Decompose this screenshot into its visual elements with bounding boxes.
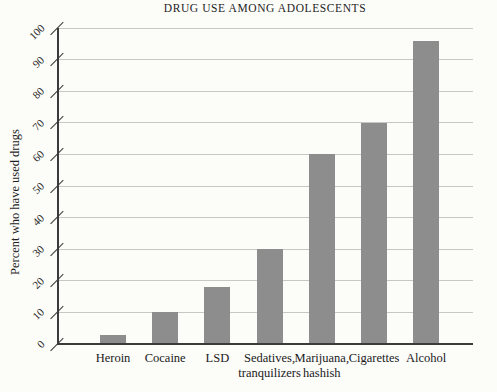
bar-sedatives-tranquilizers xyxy=(257,249,283,344)
y-axis-ticks: 0102030405060708090100 xyxy=(0,28,57,344)
y-tick-label: 40 xyxy=(30,211,46,227)
gridline xyxy=(57,91,473,92)
y-tick-label: 100 xyxy=(26,22,46,42)
bar-alcohol xyxy=(413,41,439,344)
y-tick-label: 20 xyxy=(30,275,46,291)
y-tick-label: 90 xyxy=(30,53,46,69)
gridline xyxy=(57,59,473,60)
x-axis-label: Alcohol xyxy=(374,351,478,366)
gridline xyxy=(57,186,473,187)
bar-chart: DRUG USE AMONG ADOLESCENTS Percent who h… xyxy=(0,0,497,392)
bar-marijuana-hashish xyxy=(309,154,335,344)
x-axis-label-line: hashish xyxy=(270,366,374,381)
y-tick-label: 70 xyxy=(30,117,46,133)
y-tick-label: 10 xyxy=(30,306,46,322)
y-tick-label: 80 xyxy=(30,85,46,101)
x-axis-line xyxy=(57,343,473,345)
chart-title: DRUG USE AMONG ADOLESCENTS xyxy=(57,2,473,14)
gridline xyxy=(57,217,473,218)
plot-area xyxy=(57,28,473,344)
gridline xyxy=(57,28,473,29)
y-tick-label: 60 xyxy=(30,148,46,164)
y-tick-label: 30 xyxy=(30,243,46,259)
bar-lsd xyxy=(204,287,230,344)
bar-cigarettes xyxy=(361,123,387,344)
x-axis-label-line: Alcohol xyxy=(374,351,478,366)
gridline xyxy=(57,154,473,155)
bar-cocaine xyxy=(152,312,178,344)
gridline xyxy=(57,122,473,123)
y-tick-label: 0 xyxy=(34,338,46,350)
y-tick-label: 50 xyxy=(30,180,46,196)
